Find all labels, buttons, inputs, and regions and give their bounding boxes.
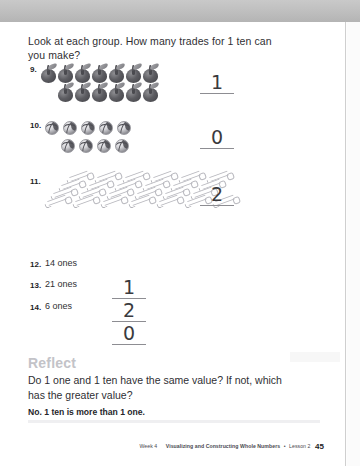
object-row bbox=[40, 64, 159, 83]
footer-separator: • bbox=[284, 443, 286, 449]
ball-icon bbox=[62, 120, 78, 137]
apple-icon bbox=[108, 64, 125, 83]
ball-icon bbox=[114, 138, 130, 155]
answer-blank-12[interactable]: 1 bbox=[112, 277, 146, 299]
apple-icon bbox=[74, 83, 91, 102]
answer-blank-13[interactable]: 2 bbox=[112, 300, 146, 322]
object-row bbox=[57, 83, 159, 102]
worksheet-page: Look at each group. How many trades for … bbox=[0, 0, 360, 466]
apple-group bbox=[40, 64, 159, 102]
item-number-13: 13. bbox=[30, 281, 41, 290]
item-label-13: 21 ones bbox=[45, 279, 77, 289]
apple-icon bbox=[91, 83, 108, 102]
item-number-12: 12. bbox=[30, 260, 41, 269]
reflect-answer-shadow bbox=[28, 420, 320, 423]
pencil-icon bbox=[156, 198, 182, 207]
pencil-icon bbox=[44, 198, 70, 207]
item-number-9: 9. bbox=[30, 65, 37, 74]
item-label-14: 6 ones bbox=[45, 301, 72, 311]
ball-group bbox=[44, 120, 134, 155]
item-label-12: 14 ones bbox=[45, 258, 77, 268]
pencil-icon bbox=[100, 198, 126, 207]
apple-icon bbox=[57, 83, 74, 102]
object-row bbox=[44, 120, 134, 137]
reflect-question: Do 1 one and 1 ten have the same value? … bbox=[28, 373, 288, 402]
ball-icon bbox=[116, 120, 132, 137]
ball-icon bbox=[96, 138, 112, 155]
footer-page-number: 45 bbox=[315, 442, 324, 451]
page-footer: Week 4 Visualizing and Constructing Whol… bbox=[139, 442, 324, 451]
apple-icon bbox=[142, 83, 159, 102]
apple-icon bbox=[125, 83, 142, 102]
apple-icon bbox=[91, 64, 108, 83]
footer-week: Week 4 bbox=[139, 443, 157, 449]
pencil-icon bbox=[72, 198, 98, 207]
ball-icon bbox=[78, 138, 94, 155]
item-number-11: 11. bbox=[30, 177, 41, 186]
item-number-14: 14. bbox=[30, 303, 41, 312]
item-number-10: 10. bbox=[30, 121, 41, 130]
answer-blank-11[interactable]: 2 bbox=[200, 184, 234, 206]
ball-icon bbox=[44, 120, 60, 137]
pencil-icon bbox=[128, 198, 154, 207]
page-gutter bbox=[347, 22, 360, 466]
object-row bbox=[60, 138, 134, 155]
answer-blank-14[interactable]: 0 bbox=[112, 323, 146, 345]
reflect-heading: Reflect bbox=[28, 355, 76, 371]
apple-icon bbox=[125, 64, 142, 83]
apple-icon bbox=[57, 64, 74, 83]
ball-icon bbox=[80, 120, 96, 137]
apple-icon bbox=[74, 64, 91, 83]
question-prompt: Look at each group. How many trades for … bbox=[28, 34, 278, 62]
apple-icon bbox=[108, 83, 125, 102]
answer-stack-12-14: 1 2 0 bbox=[112, 277, 146, 346]
footer-unit: Visualizing and Constructing Whole Numbe… bbox=[166, 443, 280, 449]
answer-blank-10[interactable]: 0 bbox=[200, 127, 234, 149]
page-content: Look at each group. How many trades for … bbox=[0, 22, 346, 466]
ball-icon bbox=[98, 120, 114, 137]
ball-icon bbox=[60, 138, 76, 155]
apple-icon bbox=[142, 64, 159, 83]
footer-lesson: Lesson 2 bbox=[289, 443, 310, 449]
scan-header-band bbox=[0, 0, 360, 22]
answer-blank-9[interactable]: 1 bbox=[200, 72, 234, 94]
apple-icon bbox=[40, 64, 57, 83]
scan-artifact bbox=[290, 352, 340, 362]
